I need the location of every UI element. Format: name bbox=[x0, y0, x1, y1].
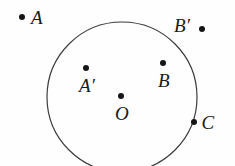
label-C: C bbox=[202, 113, 215, 132]
point-B bbox=[160, 60, 166, 66]
label-B: B bbox=[158, 71, 170, 90]
label-B-prime: B′ bbox=[174, 16, 190, 35]
point-C bbox=[191, 119, 197, 125]
label-A-prime: A′ bbox=[79, 76, 95, 95]
point-A-prime bbox=[83, 65, 89, 71]
geometry-figure: A B′ A′ B O C bbox=[0, 0, 235, 166]
label-A: A bbox=[31, 8, 43, 27]
label-O: O bbox=[115, 104, 129, 123]
point-O bbox=[118, 93, 124, 99]
point-A bbox=[19, 14, 25, 20]
point-B-prime bbox=[199, 26, 205, 32]
